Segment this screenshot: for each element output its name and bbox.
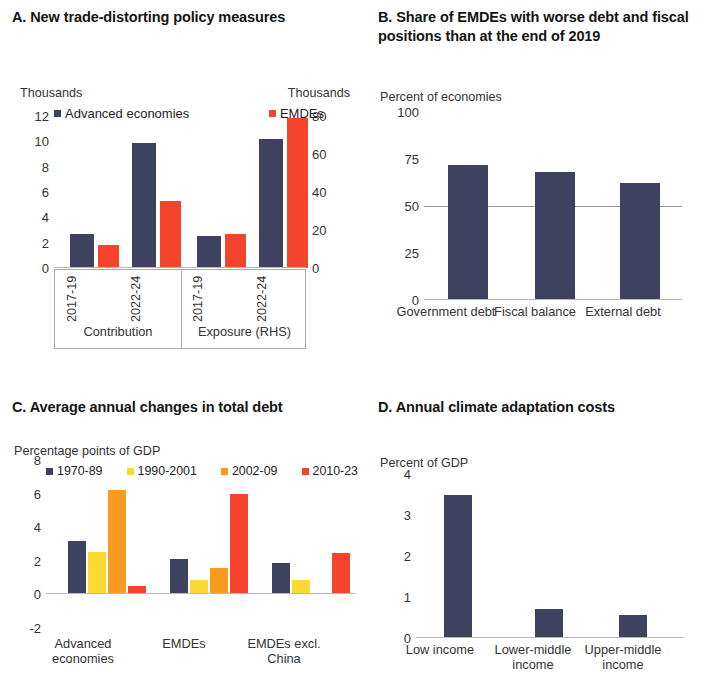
y-tick: 4 bbox=[42, 210, 49, 225]
y-tick: 10 bbox=[35, 134, 49, 149]
bar-advanced-2002-09 bbox=[108, 490, 126, 594]
bar-emdes-1970-89 bbox=[170, 559, 188, 594]
bar-emdes-contribution-2022-24 bbox=[160, 201, 181, 268]
y-tick: 4 bbox=[404, 467, 411, 482]
panel-d-title: D. Annual climate adaptation costs bbox=[378, 398, 698, 417]
bar-advanced-1990-2001 bbox=[88, 552, 106, 594]
bar-emdes-exposure-2022-24 bbox=[287, 118, 308, 268]
bar-external-debt bbox=[620, 183, 660, 300]
bar-advanced-exposure-2017-19 bbox=[197, 236, 221, 268]
panel-a-right-axis-unit: Thousands bbox=[288, 86, 350, 100]
panel-a-period-label: 2022-24 bbox=[129, 276, 143, 322]
panel-a-period-label: 2022-24 bbox=[255, 276, 269, 322]
panel-d-category-label: Upper-middle income bbox=[574, 642, 672, 672]
panel-a-zero-axis bbox=[54, 267, 306, 268]
bar-emdes-2002-09 bbox=[210, 568, 228, 594]
y-tick: 100 bbox=[397, 105, 419, 120]
bar-government-debt bbox=[448, 165, 488, 300]
bar-emdes-excl-china-1970-89 bbox=[272, 563, 290, 595]
panel-d-plot: 4 3 2 1 0 bbox=[416, 474, 684, 638]
panel-c-category-label: Advanced economies bbox=[32, 636, 134, 666]
panel-b-category-label: External debt bbox=[576, 304, 670, 319]
bar-emdes-2010-23 bbox=[230, 494, 248, 595]
panel-b-category-label: Fiscal balance bbox=[490, 304, 580, 319]
y-tick: 2 bbox=[404, 549, 411, 564]
bar-fiscal-balance bbox=[535, 172, 575, 300]
panel-b-axis-unit: Percent of economies bbox=[380, 90, 502, 104]
bar-emdes-exposure-2017-19 bbox=[225, 234, 246, 268]
y-tick: 25 bbox=[405, 246, 419, 261]
bar-advanced-exposure-2022-24 bbox=[259, 139, 283, 268]
panel-d: D. Annual climate adaptation costs Perce… bbox=[378, 398, 703, 688]
bar-emdes-contribution-2017-19 bbox=[98, 245, 119, 268]
y-tick: 12 bbox=[35, 109, 49, 124]
y-tick: -2 bbox=[29, 621, 41, 636]
panel-a-period-label: 2017-19 bbox=[65, 276, 79, 322]
y2-tick: 60 bbox=[312, 147, 326, 162]
panel-b-category-label: Government debt bbox=[396, 304, 496, 319]
y-tick: 0 bbox=[42, 261, 49, 276]
panel-d-axis-unit: Percent of GDP bbox=[380, 456, 468, 470]
y-tick: 2 bbox=[42, 235, 49, 250]
panel-a-category-box: 2017-19 2022-24 2017-19 2022-24 Contribu… bbox=[54, 269, 306, 349]
y-tick: 1 bbox=[404, 590, 411, 605]
y2-tick: 20 bbox=[312, 223, 326, 238]
panel-d-category-label: Lower-middle income bbox=[484, 642, 582, 672]
panel-c-plot: 8 6 4 2 0 -2 bbox=[46, 460, 356, 628]
y-tick: 4 bbox=[34, 520, 41, 535]
y2-tick: 0 bbox=[312, 261, 319, 276]
y-tick: 8 bbox=[34, 453, 41, 468]
panel-a-group-label: Exposure (RHS) bbox=[182, 324, 307, 339]
bar-advanced-contribution-2017-19 bbox=[70, 234, 94, 268]
y-tick: 75 bbox=[405, 152, 419, 167]
panel-c: C. Average annual changes in total debt … bbox=[12, 398, 360, 688]
panel-c-zero-axis bbox=[46, 593, 356, 594]
panel-a-title: A. New trade-distorting policy measures bbox=[12, 8, 312, 27]
panel-c-category-label: EMDEs excl. China bbox=[236, 636, 332, 666]
bar-emdes-excl-china-2010-23 bbox=[332, 553, 350, 594]
y2-tick: 80 bbox=[312, 109, 326, 124]
bar-lower-middle-income bbox=[535, 609, 563, 639]
y2-tick: 40 bbox=[312, 185, 326, 200]
panel-a-period-label: 2017-19 bbox=[191, 276, 205, 322]
y-tick: 6 bbox=[42, 185, 49, 200]
y-tick: 0 bbox=[34, 587, 41, 602]
panel-c-title: C. Average annual changes in total debt bbox=[12, 398, 322, 417]
y-tick: 2 bbox=[34, 553, 41, 568]
bar-emdes-excl-china-1990-2001 bbox=[292, 580, 310, 594]
bar-advanced-contribution-2022-24 bbox=[132, 143, 156, 268]
panel-a-left-axis-unit: Thousands bbox=[20, 86, 82, 100]
y-tick: 6 bbox=[34, 486, 41, 501]
panel-b: B. Share of EMDEs with worse debt and fi… bbox=[378, 8, 703, 378]
panel-d-zero-axis bbox=[416, 637, 684, 638]
panel-b-zero-axis bbox=[424, 299, 682, 300]
y-tick: 8 bbox=[42, 159, 49, 174]
bar-emdes-1990-2001 bbox=[190, 580, 208, 594]
panel-d-category-label: Low income bbox=[392, 642, 488, 657]
bar-advanced-1970-89 bbox=[68, 541, 86, 595]
panel-a-plot: 12 10 8 6 4 2 0 80 60 40 20 0 bbox=[54, 116, 306, 268]
panel-b-plot: 100 75 50 25 0 bbox=[424, 112, 682, 300]
bar-upper-middle-income bbox=[619, 615, 647, 638]
panel-c-category-label: EMDEs bbox=[134, 636, 234, 651]
panel-a-group-label: Contribution bbox=[55, 324, 181, 339]
y-tick: 3 bbox=[404, 508, 411, 523]
panel-a: A. New trade-distorting policy measures … bbox=[12, 8, 360, 378]
bar-low-income bbox=[444, 495, 472, 639]
y-tick: 50 bbox=[405, 199, 419, 214]
panel-b-title: B. Share of EMDEs with worse debt and fi… bbox=[378, 8, 698, 46]
